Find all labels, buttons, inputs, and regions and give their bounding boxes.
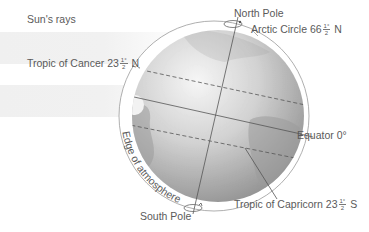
fraction-half: 1°2: [120, 57, 128, 70]
south-pole-label: South Pole: [140, 211, 191, 222]
arctic-circle-text: Arctic Circle 66: [251, 23, 322, 35]
north-pole-label: North Pole: [234, 8, 284, 19]
arctic-circle-label: Arctic Circle 661°2 N: [251, 24, 342, 37]
tropic-of-cancer-text: Tropic of Cancer 23: [27, 57, 119, 69]
tropic-of-cancer-label: Tropic of Cancer 231°2 N: [27, 58, 139, 71]
fraction-half: 1°2: [323, 23, 331, 36]
tropic-of-capricorn-label: Tropic of Capricorn 231°2 S: [234, 199, 357, 212]
tropic-of-capricorn-text: Tropic of Capricorn 23: [234, 198, 338, 210]
sun-rays-label: Sun's rays: [27, 14, 76, 25]
equator-label: Equator 0°: [297, 130, 347, 141]
fraction-half: 1°2: [339, 198, 347, 211]
